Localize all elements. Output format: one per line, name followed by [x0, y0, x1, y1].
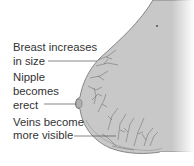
nipple: [76, 99, 82, 108]
label-line: Breast increases: [13, 40, 97, 54]
mole: [156, 25, 158, 27]
label-nipple: Nipple becomes erect: [13, 70, 59, 112]
label-line: in size: [13, 54, 97, 68]
label-line: becomes: [13, 84, 59, 98]
label-line: erect: [13, 98, 59, 112]
right-fade: [172, 0, 194, 166]
label-line: more visible: [13, 129, 84, 142]
bottom-clear: [160, 152, 194, 166]
label-line: Nipple: [13, 70, 59, 84]
label-line: Veins become: [13, 116, 84, 129]
label-veins: Veins become more visible: [13, 116, 84, 142]
label-breast-size: Breast increases in size: [13, 40, 97, 68]
